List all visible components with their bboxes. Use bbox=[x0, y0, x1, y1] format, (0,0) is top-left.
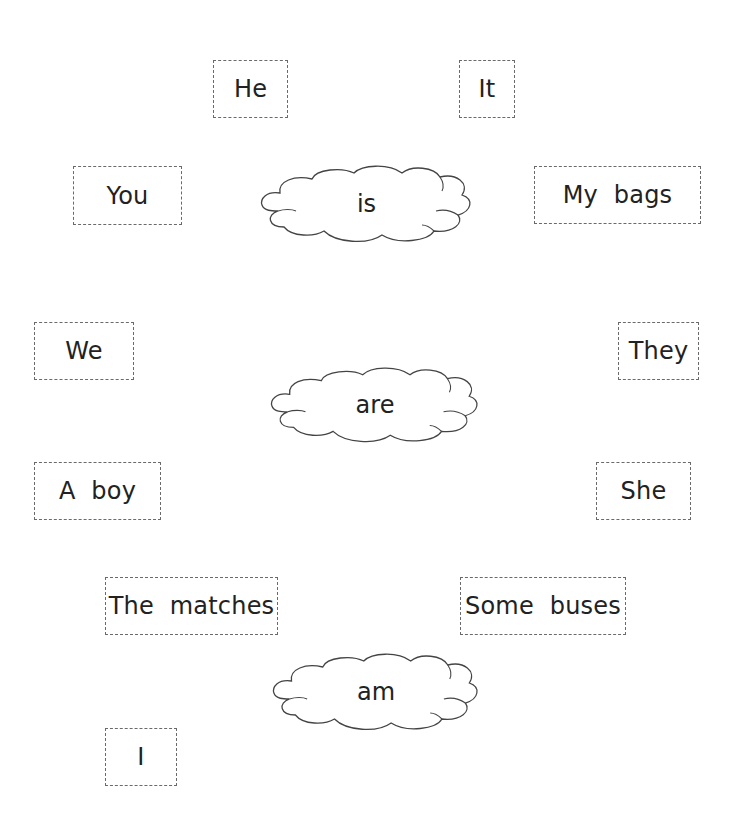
verb-cloud-is[interactable]: is bbox=[258, 165, 475, 245]
verb-cloud-are[interactable]: are bbox=[268, 367, 482, 445]
word-card-label: The matches bbox=[109, 592, 275, 620]
word-card-we[interactable]: We bbox=[34, 322, 134, 380]
verb-cloud-am[interactable]: am bbox=[270, 653, 482, 733]
word-card-you[interactable]: You bbox=[73, 166, 182, 225]
word-card-she[interactable]: She bbox=[596, 462, 691, 520]
word-card-label: My bags bbox=[563, 181, 673, 209]
word-card-they[interactable]: They bbox=[618, 322, 699, 380]
word-card-label: She bbox=[621, 477, 667, 505]
word-card-the-matches[interactable]: The matches bbox=[105, 577, 278, 635]
word-card-label: A boy bbox=[59, 477, 136, 505]
word-card-my-bags[interactable]: My bags bbox=[534, 166, 701, 224]
word-card-some-buses[interactable]: Some buses bbox=[460, 577, 626, 635]
word-card-label: They bbox=[629, 337, 689, 365]
word-card-label: You bbox=[107, 182, 149, 210]
word-card-label: We bbox=[65, 337, 103, 365]
word-card-label: Some buses bbox=[465, 592, 621, 620]
word-card-a-boy[interactable]: A boy bbox=[34, 462, 161, 520]
word-card-label: He bbox=[234, 75, 267, 103]
word-card-he[interactable]: He bbox=[213, 60, 288, 118]
verb-cloud-label: are bbox=[268, 391, 482, 419]
verb-cloud-label: is bbox=[258, 190, 475, 218]
word-card-it[interactable]: It bbox=[459, 60, 515, 118]
word-card-i[interactable]: I bbox=[105, 728, 177, 786]
verb-cloud-label: am bbox=[270, 678, 482, 706]
word-card-label: I bbox=[137, 743, 144, 771]
word-card-label: It bbox=[479, 75, 496, 103]
